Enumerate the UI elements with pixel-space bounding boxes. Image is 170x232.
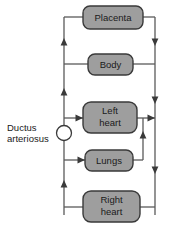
body-label: Body	[100, 59, 122, 70]
node-body[interactable]: Body	[88, 54, 133, 75]
ductus-arteriosus-circle	[57, 126, 72, 141]
left-heart-label-line2: heart	[99, 117, 121, 128]
ductus-arteriosus-label-line1: Ductus	[7, 122, 37, 133]
arrow-right-rail-down-bottom	[152, 167, 159, 175]
annotation-ductus-arteriosus: Ductus arteriosus	[7, 122, 49, 144]
node-lungs[interactable]: Lungs	[85, 150, 133, 171]
arrow-left-heart-to-right-rail	[148, 115, 156, 122]
arrow-right-rail-down-top	[152, 39, 159, 47]
left-heart-label-line1: Left	[102, 105, 118, 116]
arrow-into-lungs	[78, 157, 86, 164]
lungs-label: Lungs	[96, 155, 122, 166]
arrow-lungs-riser-up	[140, 131, 147, 139]
ductus-arteriosus-label-line2: arteriosus	[7, 133, 49, 144]
fetal-circulation-diagram: Placenta Body Left heart Lungs Right hea…	[0, 0, 170, 232]
node-left-heart[interactable]: Left heart	[83, 102, 137, 133]
right-heart-label-line1: Right	[100, 194, 123, 205]
arrow-left-rail-up-top	[61, 38, 68, 46]
placenta-label: Placenta	[95, 12, 133, 23]
node-right-heart[interactable]: Right heart	[83, 191, 140, 222]
arrow-right-rail-down-mid	[152, 97, 159, 105]
circulation-diagram-canvas: Placenta Body Left heart Lungs Right hea…	[0, 0, 170, 232]
node-placenta[interactable]: Placenta	[83, 6, 143, 29]
arrow-left-rail-up-mid	[61, 88, 68, 96]
arrow-left-rail-up-bottom	[61, 180, 68, 188]
right-heart-label-line2: heart	[101, 206, 123, 217]
arrow-into-left-heart	[76, 115, 84, 122]
